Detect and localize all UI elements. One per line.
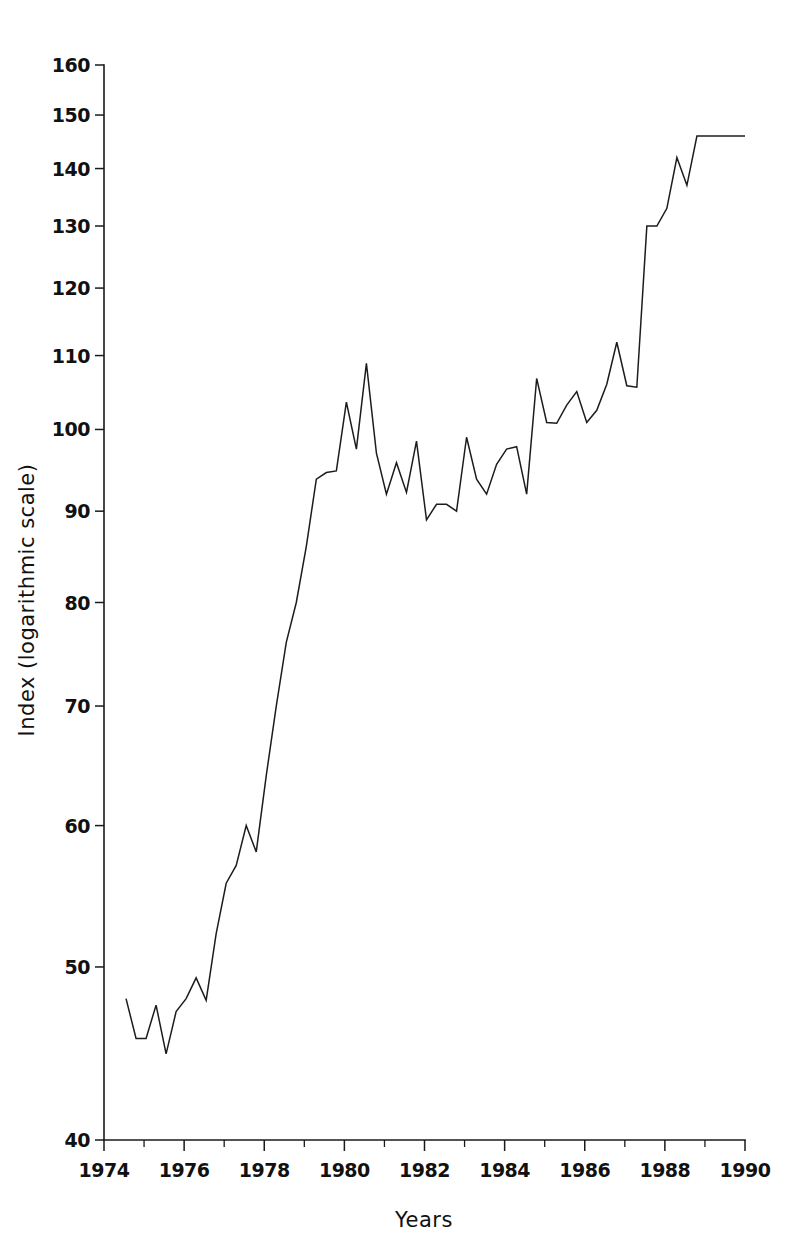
y-axis-tick-label: 120 [52,277,90,299]
y-axis-tick-label: 100 [52,418,90,440]
x-axis-tick-label: 1974 [79,1159,130,1181]
y-axis-tick-label: 110 [52,345,90,367]
y-axis-tick-label: 150 [52,104,90,126]
ticks-group [95,65,745,1151]
x-axis-tick-label: 1978 [239,1159,290,1181]
y-axis-tick-label: 160 [52,54,90,76]
y-axis-title: Index (logarithmic scale) [15,464,39,737]
y-axis-tick-label: 40 [65,1129,91,1151]
y-axis-tick-label: 130 [52,215,90,237]
line-chart: 4050607080901001101201301401501601974197… [0,0,794,1246]
x-axis-tick-label: 1982 [399,1159,450,1181]
x-axis-tick-label: 1990 [720,1159,771,1181]
y-axis-tick-label: 90 [65,500,91,522]
x-axis-tick-label: 1980 [319,1159,370,1181]
y-axis-tick-label: 70 [65,695,91,717]
x-axis-tick-label: 1984 [479,1159,530,1181]
chart-figure: 4050607080901001101201301401501601974197… [0,0,794,1246]
x-axis-title: Years [394,1208,453,1232]
tick-labels-group: 4050607080901001101201301401501601974197… [52,54,771,1181]
y-axis-tick-label: 50 [65,956,91,978]
data-series-line [126,136,745,1054]
x-axis-tick-label: 1986 [559,1159,610,1181]
y-axis-tick-label: 60 [65,815,91,837]
y-axis-tick-label: 80 [65,592,91,614]
x-axis-tick-label: 1988 [639,1159,690,1181]
y-axis-tick-label: 140 [52,158,90,180]
x-axis-tick-label: 1976 [159,1159,210,1181]
